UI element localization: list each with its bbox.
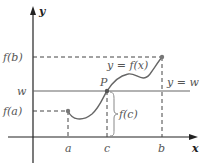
ivt-diagram: y x f(b) w f(a) a c b y = f(x) y = w P f…: [0, 0, 202, 163]
y-axis-label: y: [38, 5, 47, 18]
w-label: w: [17, 85, 27, 98]
point-b: [160, 55, 164, 59]
a-label: a: [65, 142, 72, 155]
b-label: b: [158, 142, 165, 155]
point-a: [66, 109, 70, 113]
x-axis-label: x: [191, 142, 199, 155]
point-p-label: P: [99, 76, 108, 89]
fa-label: f(a): [2, 105, 22, 118]
y-axis-arrow-icon: [30, 6, 36, 15]
point-p: [105, 89, 109, 93]
curve-label: y = f(x): [106, 59, 148, 72]
fc-brace: [110, 92, 118, 136]
x-axis-arrow-icon: [189, 134, 198, 140]
line-label: y = w: [166, 76, 199, 89]
fc-label: f(c): [118, 108, 138, 121]
fb-label: f(b): [2, 51, 23, 64]
c-label: c: [104, 142, 110, 155]
